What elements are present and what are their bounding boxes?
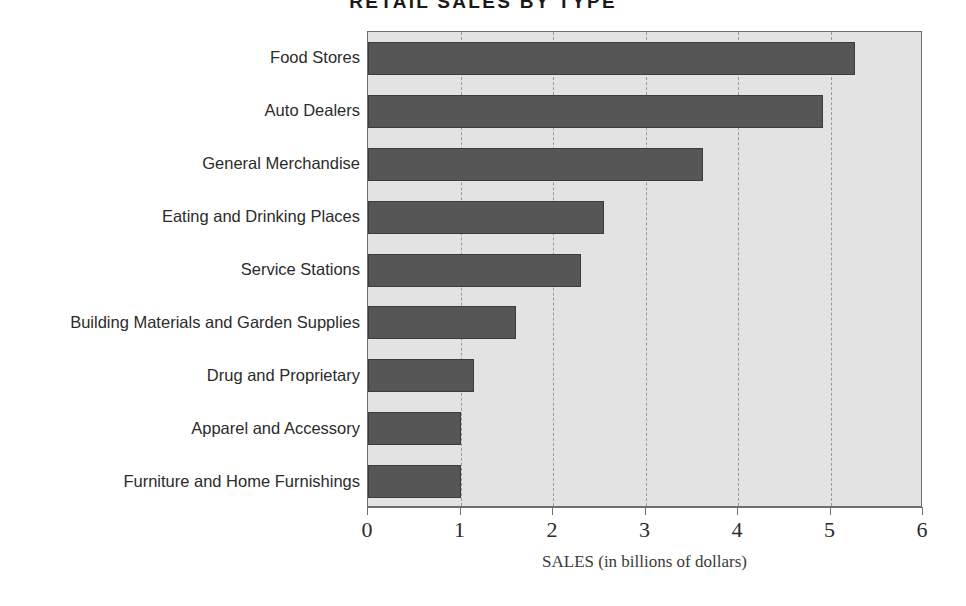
x-tick [922, 507, 923, 515]
bar-row [368, 42, 923, 75]
x-axis-title: SALES (in billions of dollars) [367, 552, 922, 572]
category-label: Auto Dealers [0, 101, 360, 119]
category-label: Eating and Drinking Places [0, 207, 360, 225]
x-tick-label: 2 [532, 517, 572, 543]
x-tick-label: 5 [810, 517, 850, 543]
category-axis: Food StoresAuto DealersGeneral Merchandi… [0, 31, 360, 507]
x-tick [460, 507, 461, 515]
bar [368, 95, 823, 128]
bar [368, 148, 703, 181]
x-tick-label: 0 [347, 517, 387, 543]
bar-row [368, 359, 923, 392]
x-tick [552, 507, 553, 515]
bar [368, 359, 474, 392]
x-tick [737, 507, 738, 515]
bar-row [368, 95, 923, 128]
chart-title: RETAIL SALES BY TYPE [0, 0, 966, 13]
x-tick-label: 6 [902, 517, 942, 543]
x-tick-label: 3 [625, 517, 665, 543]
bar [368, 254, 581, 287]
x-tick [830, 507, 831, 515]
bar [368, 412, 461, 445]
category-label: Apparel and Accessory [0, 419, 360, 437]
category-label: Building Materials and Garden Supplies [0, 313, 360, 331]
bar-row [368, 465, 923, 498]
bar [368, 42, 855, 75]
x-tick [645, 507, 646, 515]
chart-figure: RETAIL SALES BY TYPE Food StoresAuto Dea… [0, 0, 966, 606]
category-label: Food Stores [0, 48, 360, 66]
x-tick [367, 507, 368, 515]
category-label: Service Stations [0, 260, 360, 278]
category-label: Furniture and Home Furnishings [0, 472, 360, 490]
bar-row [368, 412, 923, 445]
bar-row [368, 306, 923, 339]
category-label: General Merchandise [0, 154, 360, 172]
x-tick-label: 4 [717, 517, 757, 543]
x-axis-line: 0123456 [367, 507, 922, 508]
bar [368, 306, 516, 339]
x-tick-label: 1 [440, 517, 480, 543]
bar [368, 201, 604, 234]
bar-row [368, 148, 923, 181]
category-label: Drug and Proprietary [0, 366, 360, 384]
plot-area [367, 31, 922, 507]
bar-row [368, 254, 923, 287]
bar-row [368, 201, 923, 234]
bar [368, 465, 461, 498]
